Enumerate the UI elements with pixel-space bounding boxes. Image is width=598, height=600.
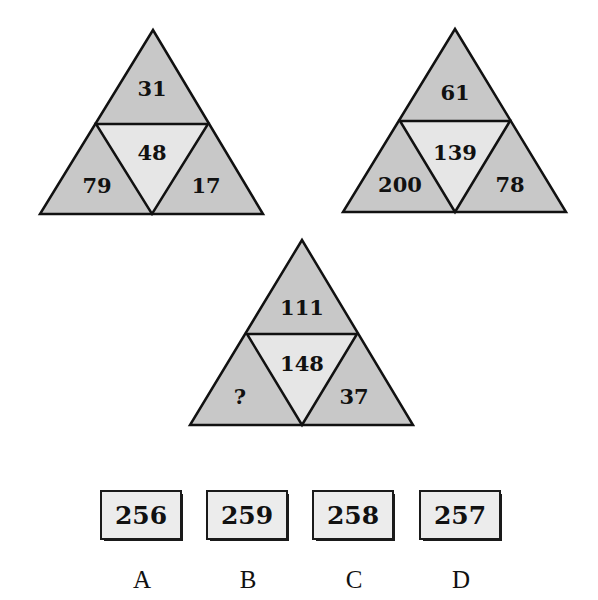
- triangle-1-left-value: 79: [82, 173, 111, 198]
- option-a-value: 256: [115, 501, 167, 530]
- triangle-3-left-unknown: ?: [234, 384, 246, 409]
- triangle-1-top-value: 31: [137, 76, 166, 101]
- option-b-label: B: [207, 566, 289, 594]
- triangle-3-top-value: 111: [280, 295, 324, 320]
- option-c-label: C: [313, 566, 395, 594]
- option-a-box[interactable]: 256: [100, 490, 182, 540]
- triangle-puzzle-figure: 31 48 79 17 61 139 200 78 111 148 ? 37: [0, 0, 598, 470]
- triangle-3-right-value: 37: [339, 384, 368, 409]
- triangle-1: 31 48 79 17: [40, 30, 263, 214]
- option-d-value: 257: [434, 501, 486, 530]
- triangle-1-center-value: 48: [137, 140, 166, 165]
- option-d-label: D: [420, 566, 502, 594]
- triangle-2: 61 139 200 78: [343, 29, 566, 212]
- option-b-box[interactable]: 259: [206, 490, 288, 540]
- option-c-box[interactable]: 258: [312, 490, 394, 540]
- triangle-2-top-value: 61: [440, 80, 469, 105]
- option-b-value: 259: [221, 501, 273, 530]
- option-c-value: 258: [327, 501, 379, 530]
- option-a-label: A: [101, 566, 183, 594]
- triangle-2-left-value: 200: [378, 172, 422, 197]
- triangle-2-center-value: 139: [433, 140, 477, 165]
- triangle-2-right-value: 78: [495, 172, 524, 197]
- option-d-box[interactable]: 257: [419, 490, 501, 540]
- triangle-1-right-value: 17: [191, 173, 220, 198]
- triangle-3-center-value: 148: [280, 351, 324, 376]
- triangle-3: 111 148 ? 37: [190, 240, 413, 425]
